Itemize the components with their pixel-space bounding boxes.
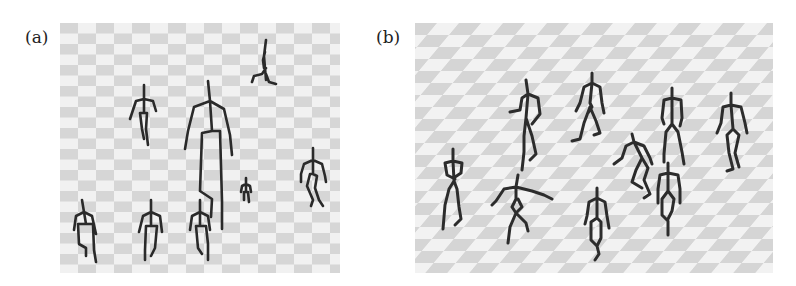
panel-b-scene — [415, 23, 773, 273]
panel-b — [415, 23, 773, 273]
checkerboard-floor — [415, 23, 773, 273]
panel-a — [60, 23, 340, 273]
panel-a-label: (a) — [25, 27, 48, 47]
panel-a-scene — [60, 23, 340, 273]
checkerboard-floor — [60, 23, 340, 273]
panel-b-label: (b) — [376, 27, 400, 47]
